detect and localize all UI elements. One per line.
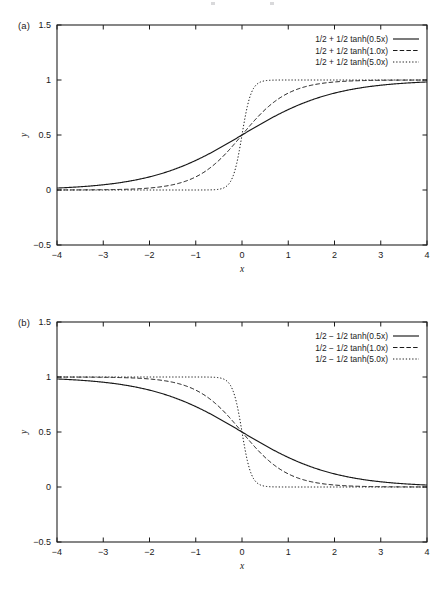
legend-label: 1/2 − 1/2 tanh(1.0x) (315, 343, 388, 353)
x-axis-label: x (239, 561, 245, 571)
x-axis-label: x (239, 264, 245, 274)
x-tick-label: 1 (286, 547, 291, 557)
series-line (57, 80, 427, 190)
x-tick-label: 0 (239, 250, 244, 260)
panel-a-plot: −4−3−2−101234−0.500.511.5xy1/2 + 1/2 tan… (0, 0, 438, 296)
y-axis-label: y (19, 429, 29, 435)
y-tick-label: 0.5 (38, 130, 51, 140)
x-tick-label: −2 (144, 250, 154, 260)
legend-label: 1/2 + 1/2 tanh(5.0x) (315, 57, 388, 67)
x-tick-label: −3 (98, 547, 108, 557)
x-tick-label: 0 (239, 547, 244, 557)
x-tick-label: 4 (424, 250, 429, 260)
x-tick-label: 2 (332, 250, 337, 260)
y-tick-label: 0 (46, 482, 51, 492)
x-tick-label: −3 (98, 250, 108, 260)
y-tick-label: 1.5 (38, 317, 51, 327)
x-tick-label: 4 (424, 547, 429, 557)
panel-a: (a) −4−3−2−101234−0.500.511.5xy1/2 + 1/2… (0, 0, 438, 296)
x-tick-label: 2 (332, 547, 337, 557)
series-line (57, 377, 427, 487)
x-tick-label: −2 (144, 547, 154, 557)
y-tick-label: 1 (46, 372, 51, 382)
x-tick-label: 3 (378, 547, 383, 557)
x-tick-label: −1 (191, 547, 201, 557)
x-tick-label: 1 (286, 250, 291, 260)
x-tick-label: −4 (52, 547, 62, 557)
legend-label: 1/2 + 1/2 tanh(1.0x) (315, 46, 388, 56)
y-tick-label: 0.5 (38, 427, 51, 437)
legend-label: 1/2 − 1/2 tanh(0.5x) (315, 331, 388, 341)
y-tick-label: 1 (46, 75, 51, 85)
y-tick-label: −0.5 (33, 240, 51, 250)
y-tick-label: 1.5 (38, 20, 51, 30)
x-tick-label: −1 (191, 250, 201, 260)
legend-label: 1/2 − 1/2 tanh(5.0x) (315, 354, 388, 364)
legend-label: 1/2 + 1/2 tanh(0.5x) (315, 34, 388, 44)
x-tick-label: −4 (52, 250, 62, 260)
panel-b: (b) −4−3−2−101234−0.500.511.5xy1/2 − 1/2… (0, 297, 438, 593)
figure-page: (a) −4−3−2−101234−0.500.511.5xy1/2 + 1/2… (0, 0, 438, 593)
y-tick-label: −0.5 (33, 537, 51, 547)
panel-b-plot: −4−3−2−101234−0.500.511.5xy1/2 − 1/2 tan… (0, 297, 438, 593)
y-tick-label: 0 (46, 185, 51, 195)
x-tick-label: 3 (378, 250, 383, 260)
y-axis-label: y (19, 132, 29, 138)
